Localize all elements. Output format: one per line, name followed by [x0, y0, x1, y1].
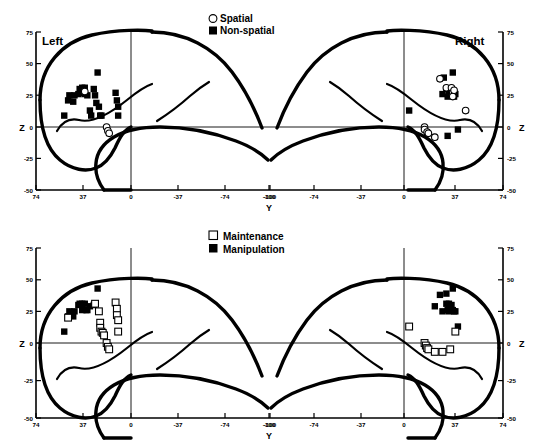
data-point-open-square — [425, 346, 432, 353]
data-point-filled-square — [94, 69, 100, 75]
brain-outline-left-bottom — [40, 278, 268, 438]
data-point-filled-square — [439, 308, 445, 314]
y2-tick-right-50: 50 — [507, 276, 514, 283]
x-axis-label-left: Y — [266, 203, 272, 213]
data-points-bottom — [61, 285, 461, 355]
y2-tick-right-neg25: -25 — [507, 377, 517, 384]
legend-label-manipulation: Manipulation — [223, 244, 285, 255]
panel-top: Spatial Non-spatial Left Right — [0, 0, 539, 222]
x2-tick-74: 74 — [33, 421, 40, 428]
data-point-open-square — [431, 348, 438, 355]
y-tick-right-25: 25 — [507, 92, 514, 99]
y2-axis-label-right: Z — [519, 339, 525, 349]
data-point-filled-square — [444, 133, 450, 139]
figure-container: Spatial Non-spatial Left Right — [0, 0, 539, 444]
data-point-filled-square — [448, 302, 454, 308]
series-maintenance-left — [65, 299, 122, 353]
data-point-filled-square — [115, 104, 121, 110]
y2-tick-right-75: 75 — [507, 245, 514, 252]
data-point-open-circle — [437, 76, 444, 83]
y2-tick-right-neg50: -50 — [507, 415, 517, 422]
x-tick-r-neg100: -100 — [264, 193, 277, 200]
x-tick-r-37: 37 — [452, 193, 459, 200]
data-point-filled-square — [91, 86, 97, 92]
data-point-filled-square — [70, 98, 76, 104]
x2-tick-r-neg100: -100 — [264, 421, 277, 428]
legend-bottom: Maintenance Manipulation — [209, 231, 285, 255]
data-point-filled-square — [88, 112, 94, 118]
x2-tick-r-37: 37 — [452, 421, 459, 428]
data-point-open-circle — [449, 93, 456, 100]
panel-bottom-svg: Maintenance Manipulation — [0, 222, 539, 444]
y-tick-right-neg50: -50 — [507, 187, 517, 194]
y2-tick-25: 25 — [26, 308, 33, 315]
y-tick-right-75: 75 — [507, 29, 514, 36]
x-tick-neg74: -74 — [221, 193, 231, 200]
data-point-filled-square — [61, 112, 67, 118]
x2-tick-r-neg37: -37 — [357, 421, 367, 428]
x2-tick-r-74: 74 — [500, 421, 507, 428]
data-point-open-circle — [425, 130, 432, 137]
data-point-open-square — [115, 317, 122, 324]
data-point-filled-square — [96, 104, 102, 110]
x2-tick-0: 0 — [129, 421, 133, 428]
data-point-filled-square — [439, 91, 445, 97]
data-point-open-circle — [451, 87, 458, 94]
data-point-filled-square — [432, 303, 438, 309]
x2-axis-label: Y — [266, 431, 272, 441]
x-tick-r-0: 0 — [402, 193, 406, 200]
y-tick-neg25: -25 — [24, 155, 34, 162]
x2-tick-r-0: 0 — [402, 421, 406, 428]
legend-marker-open-circle — [209, 15, 217, 23]
brain-outline-right-bottom — [271, 278, 499, 438]
data-point-open-square — [439, 348, 446, 355]
data-point-filled-square — [450, 285, 456, 291]
y-tick-75: 75 — [26, 29, 33, 36]
data-point-filled-square — [112, 90, 118, 96]
data-point-filled-square — [114, 97, 120, 103]
legend-label-maintenance: Maintenance — [223, 231, 284, 242]
y-tick-right-0: 0 — [507, 124, 511, 131]
x-tick-74: 74 — [33, 193, 40, 200]
y-tick-right-50: 50 — [507, 60, 514, 67]
data-point-filled-square — [406, 107, 412, 113]
y-tick-50: 50 — [26, 60, 33, 67]
x2-tick-r-neg74: -74 — [310, 421, 320, 428]
x-tick-neg37: -37 — [174, 193, 184, 200]
data-point-filled-square — [92, 92, 98, 98]
y-axis-label-right: Z — [519, 123, 525, 133]
data-point-filled-square — [71, 308, 77, 314]
data-point-filled-square — [61, 328, 67, 334]
x2-tick-neg74: -74 — [221, 421, 231, 428]
brain-outline-left-top — [40, 30, 268, 190]
panel-top-svg: Spatial Non-spatial Left Right — [0, 0, 539, 222]
x-tick-0: 0 — [129, 193, 133, 200]
data-point-open-square — [101, 332, 108, 339]
data-point-filled-square — [443, 290, 449, 296]
x-tick-r-neg37: -37 — [357, 193, 367, 200]
y2-tick-0: 0 — [30, 340, 34, 347]
y2-tick-right-25: 25 — [507, 308, 514, 315]
series-spatial-right — [421, 76, 469, 141]
series-non-spatial-right — [406, 69, 461, 139]
data-point-open-circle — [81, 88, 88, 95]
data-point-filled-square — [455, 126, 461, 132]
y2-tick-75: 75 — [26, 245, 33, 252]
x-tick-r-74: 74 — [500, 193, 507, 200]
data-point-open-square — [96, 308, 103, 315]
y-tick-right-neg25: -25 — [507, 155, 517, 162]
legend-marker-open-square — [209, 231, 218, 240]
x-tick-37: 37 — [80, 193, 87, 200]
data-point-open-square — [115, 328, 122, 335]
data-point-open-square — [452, 328, 459, 335]
y-tick-0: 0 — [30, 124, 34, 131]
data-point-open-circle — [106, 130, 113, 137]
data-point-open-circle — [432, 134, 439, 141]
data-point-open-circle — [462, 107, 469, 114]
y2-tick-right-0: 0 — [507, 340, 511, 347]
data-point-filled-square — [94, 285, 100, 291]
x2-tick-neg37: -37 — [174, 421, 184, 428]
data-point-open-square — [92, 300, 99, 307]
y-axis-label-left: Z — [19, 123, 25, 133]
data-point-filled-square — [450, 69, 456, 75]
